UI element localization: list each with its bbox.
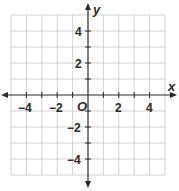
x-axis-label: x bbox=[167, 79, 176, 94]
coordinate-plane: x y O −4 −2 2 4 4 2 −2 −4 bbox=[0, 0, 179, 191]
x-tick-label: −2 bbox=[49, 101, 63, 115]
y-tick-label: 4 bbox=[75, 25, 82, 39]
x-axis bbox=[1, 92, 177, 98]
x-tick-label: −4 bbox=[18, 101, 32, 115]
x-tick-label: 2 bbox=[115, 101, 122, 115]
y-tick-label: −4 bbox=[67, 153, 81, 167]
up-arrow-icon bbox=[85, 3, 91, 10]
origin-label: O bbox=[77, 99, 87, 114]
y-tick-label: 2 bbox=[75, 57, 82, 71]
x-tick-label: 4 bbox=[146, 101, 153, 115]
down-arrow-icon bbox=[85, 181, 91, 188]
y-tick-label: −2 bbox=[67, 121, 81, 135]
y-axis-label: y bbox=[92, 2, 101, 17]
left-arrow-icon bbox=[1, 92, 8, 98]
